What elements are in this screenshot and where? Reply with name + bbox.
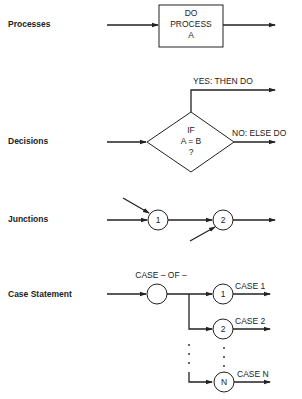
process-box-line1: DO xyxy=(185,8,198,18)
process-symbol: DO PROCESS A xyxy=(107,5,275,47)
ellipsis-dots-right xyxy=(223,347,225,367)
case-node-1-label: 1 xyxy=(221,289,226,299)
case-statement-symbol: CASE – OF – 1 CASE 1 2 CASE 2 N xyxy=(107,270,270,392)
decision-line1: IF xyxy=(187,125,195,135)
junction-node-2-label: 2 xyxy=(221,215,226,225)
decision-no-label: NO: ELSE DO xyxy=(232,128,287,138)
case2-label: CASE 2 xyxy=(235,316,266,326)
decision-line2: A = B xyxy=(181,136,202,146)
junction-node-1-label: 1 xyxy=(156,215,161,225)
case-node-n-label: N xyxy=(221,377,227,387)
case-selector-node xyxy=(147,284,167,304)
process-box-line3: A xyxy=(188,30,194,40)
decision-yes-arrow xyxy=(191,90,275,112)
caseN-branch-arrow xyxy=(189,372,212,382)
flowchart-symbols-diagram: DO PROCESS A IF A = B ? YES: THEN DO NO:… xyxy=(0,0,302,399)
decision-line3: ? xyxy=(189,147,194,157)
junction-symbols: 1 2 xyxy=(107,198,275,241)
junction2-diagonal-arrow xyxy=(190,227,215,241)
junction1-diagonal-arrow xyxy=(123,198,149,213)
case-header-label: CASE – OF – xyxy=(135,270,187,280)
process-box-line2: PROCESS xyxy=(170,19,212,29)
case1-label: CASE 1 xyxy=(235,281,266,291)
ellipsis-dots-left xyxy=(188,344,190,364)
decision-symbol: IF A = B ? YES: THEN DO NO: ELSE DO xyxy=(107,76,287,172)
case-node-2-label: 2 xyxy=(221,324,226,334)
caseN-label: CASE N xyxy=(237,369,269,379)
decision-yes-label: YES: THEN DO xyxy=(193,76,253,86)
case2-branch-arrow xyxy=(189,294,212,329)
